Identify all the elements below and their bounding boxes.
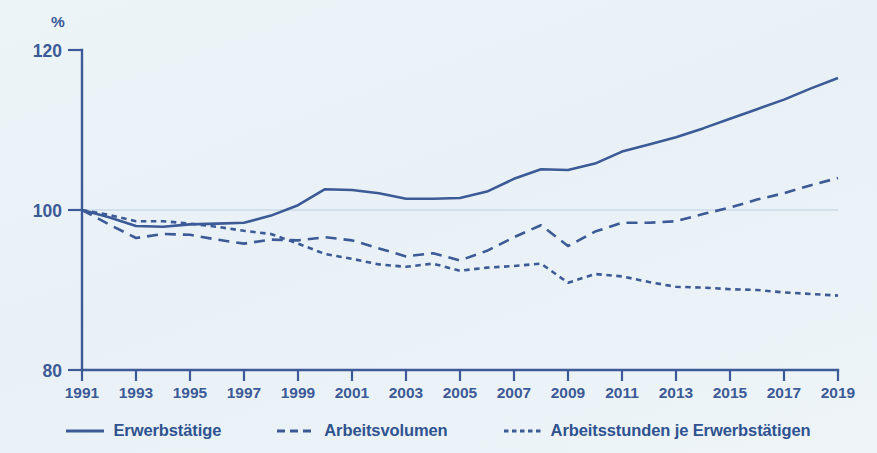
legend-item-arbeitsstunden: Arbeitsstunden je Erwerbstätigen bbox=[504, 421, 811, 440]
y-tick-label-80: 80 bbox=[43, 361, 63, 381]
x-axis-ticks bbox=[82, 370, 838, 381]
series-line-arbeitsvolumen bbox=[82, 178, 838, 260]
x-tick-label-2009: 2009 bbox=[551, 384, 586, 401]
chart-plot-area: 120 100 80 % 199119931995199719992001200… bbox=[0, 0, 877, 453]
y-axis-unit-label: % bbox=[51, 13, 65, 30]
legend-label-arbeitsstunden: Arbeitsstunden je Erwerbstätigen bbox=[551, 421, 811, 440]
legend-label-arbeitsvolumen: Arbeitsvolumen bbox=[324, 421, 447, 440]
x-tick-label-1997: 1997 bbox=[227, 384, 261, 401]
x-tick-label-2011: 2011 bbox=[605, 384, 639, 401]
x-tick-label-2019: 2019 bbox=[821, 384, 856, 401]
x-tick-label-1993: 1993 bbox=[119, 384, 154, 401]
line-chart-figure: 120 100 80 % 199119931995199719992001200… bbox=[0, 0, 877, 453]
x-tick-label-2015: 2015 bbox=[713, 384, 748, 401]
x-tick-label-2007: 2007 bbox=[497, 384, 531, 401]
x-tick-label-2017: 2017 bbox=[767, 384, 801, 401]
x-tick-label-1991: 1991 bbox=[65, 384, 100, 401]
y-axis-ticks bbox=[68, 50, 82, 370]
chart-legend: Erwerbstätige Arbeitsvolumen Arbeitsstun… bbox=[0, 408, 877, 453]
x-axis-tick-labels: 1991199319951997199920012003200520072009… bbox=[65, 384, 856, 401]
legend-item-erwerbstaetige: Erwerbstätige bbox=[66, 421, 221, 440]
series-line-erwerbstaetige bbox=[82, 78, 838, 227]
x-tick-label-2005: 2005 bbox=[443, 384, 478, 401]
x-tick-label-2003: 2003 bbox=[389, 384, 424, 401]
legend-swatch-dotted-icon bbox=[504, 424, 542, 438]
legend-label-erwerbstaetige: Erwerbstätige bbox=[113, 421, 221, 440]
legend-swatch-dashed-icon bbox=[277, 424, 315, 438]
y-tick-label-100: 100 bbox=[33, 201, 62, 221]
x-tick-label-1995: 1995 bbox=[173, 384, 208, 401]
series-line-arbeitsstunden-je-erwerbstaetigen bbox=[82, 210, 838, 296]
x-tick-label-1999: 1999 bbox=[281, 384, 316, 401]
legend-swatch-solid-icon bbox=[66, 424, 104, 438]
x-tick-label-2001: 2001 bbox=[335, 384, 370, 401]
y-tick-label-120: 120 bbox=[33, 41, 62, 61]
x-tick-label-2013: 2013 bbox=[659, 384, 694, 401]
legend-item-arbeitsvolumen: Arbeitsvolumen bbox=[277, 421, 447, 440]
